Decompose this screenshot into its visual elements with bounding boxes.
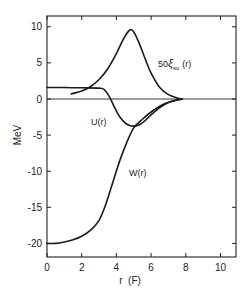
w-curve-label: W(r) <box>129 168 147 178</box>
xi-curve-label: 50ξso(r) <box>158 57 191 71</box>
plot-border <box>47 16 236 257</box>
y-tick-label: -10 <box>28 166 43 177</box>
x-tick-label: 2 <box>79 262 85 273</box>
xi-label-tail: (r) <box>182 59 191 69</box>
y-tick-label: -20 <box>28 238 43 249</box>
y-tick-label: 10 <box>31 21 43 32</box>
y-tick-label: 5 <box>36 57 42 68</box>
x-axis-ticks: 0246810 <box>44 16 226 273</box>
y-tick-label: -5 <box>33 130 42 141</box>
x-tick-label: 0 <box>44 262 50 273</box>
chart: 0246810 1050-5-10-15-20 r (F) MeV 50ξso(… <box>0 0 250 295</box>
w-potential-curve <box>47 99 182 244</box>
x-tick-label: 4 <box>114 262 120 273</box>
u-curve-label: U(r) <box>91 117 107 127</box>
xi-label-main: 50 <box>158 59 168 69</box>
x-tick-label: 6 <box>148 262 154 273</box>
plot-frame <box>47 16 236 257</box>
y-tick-label: -15 <box>28 202 43 213</box>
x-tick-label: 10 <box>215 262 227 273</box>
x-axis-title: r (F) <box>119 275 141 286</box>
y-tick-label: 0 <box>36 94 42 105</box>
y-axis-ticks: 1050-5-10-15-20 <box>28 21 236 249</box>
xi-label-sub: so <box>173 65 180 71</box>
x-tick-label: 8 <box>183 262 189 273</box>
u-potential-curve <box>47 87 182 126</box>
y-axis-title: MeV <box>12 124 23 145</box>
